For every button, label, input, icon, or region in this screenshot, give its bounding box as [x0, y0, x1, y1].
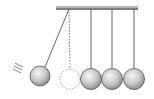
ball-2 — [81, 69, 102, 90]
swinging-ball — [30, 66, 50, 86]
newtons-cradle-illustration — [0, 0, 154, 99]
frame-bar — [56, 7, 138, 9]
strings — [45, 9, 134, 69]
ball-3 — [102, 69, 123, 90]
ghost-ball — [60, 69, 80, 89]
motion-lines-icon — [13, 63, 23, 73]
newtons-cradle-diagram — [0, 0, 154, 99]
ghost-string — [69, 9, 70, 69]
swinging-string — [45, 9, 69, 67]
ball-4 — [124, 69, 145, 90]
